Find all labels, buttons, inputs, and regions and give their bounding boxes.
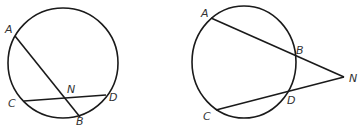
- label-n: N: [349, 72, 357, 85]
- label-c: C: [8, 97, 16, 110]
- label-d: D: [109, 91, 117, 104]
- label-c: C: [203, 110, 211, 123]
- circle: [192, 6, 296, 118]
- intersecting-secants-figure: A B C D N: [192, 6, 357, 123]
- label-d: D: [287, 94, 295, 107]
- label-b: B: [296, 44, 304, 57]
- label-n: N: [67, 83, 75, 96]
- label-a: A: [4, 23, 13, 36]
- intersecting-chords-figure: A B C D N: [4, 8, 118, 125]
- secant-an: [211, 18, 344, 77]
- chord-cd: [24, 95, 106, 101]
- label-b: B: [76, 115, 84, 125]
- secant-cn: [216, 77, 344, 110]
- chord-ab: [15, 36, 80, 117]
- geometry-diagram: A B C D N A B C D N: [0, 0, 362, 125]
- label-a: A: [200, 7, 209, 20]
